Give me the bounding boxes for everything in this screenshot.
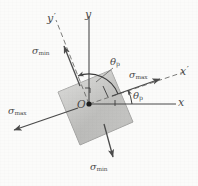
sigma-max-right-label: σmax: [129, 70, 148, 81]
stress-element-square: [58, 70, 133, 145]
sigma-max-left-label: σmax: [8, 106, 27, 117]
sigma-min-lower-label: σmin: [90, 162, 107, 173]
theta-p-lower-label: θp: [133, 91, 143, 101]
figure-canvas: [0, 0, 198, 186]
x-axis-label: x: [178, 97, 184, 108]
y-axis-label: y: [85, 9, 91, 20]
theta-p-upper-label: θp: [110, 57, 120, 67]
sigma-min-upper-label: σmin: [32, 46, 49, 57]
y-prime-axis-label: y′: [47, 12, 56, 24]
origin-point: [86, 101, 91, 106]
sigma-min-upper-arrow: [64, 46, 80, 86]
principal-stress-figure: y′ y x′ x O σmin σmax σmax σmin θp θp: [0, 0, 198, 186]
origin-label: O: [77, 99, 86, 110]
x-prime-axis-label: x′: [180, 65, 189, 77]
